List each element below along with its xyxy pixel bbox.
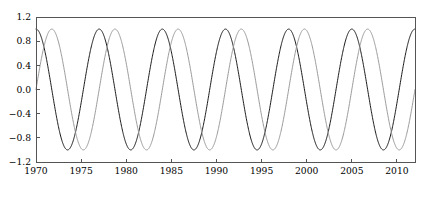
y-tick-label: −0.4 [9, 108, 31, 119]
x-tick-label: 1980 [115, 165, 139, 176]
y-tick-label: 0.8 [16, 35, 31, 46]
x-tick-label: 1975 [69, 165, 93, 176]
chart-figure: 1.20.80.40.0−0.4−0.8−1.21970197519801985… [0, 0, 433, 201]
x-tick-label: 1970 [24, 165, 48, 176]
y-tick-label: 0.0 [16, 84, 31, 95]
y-tick-label: 0.4 [16, 60, 31, 71]
y-tick-label: 1.2 [16, 11, 31, 22]
x-tick-label: 2005 [340, 165, 364, 176]
y-tick-label: −0.8 [9, 132, 31, 143]
x-tick-label: 2010 [385, 165, 409, 176]
y-axis-ticks: 1.20.80.40.0−0.4−0.8−1.2 [9, 11, 40, 167]
x-tick-label: 2000 [295, 165, 319, 176]
x-tick-label: 1990 [205, 165, 229, 176]
chart-canvas: 1.20.80.40.0−0.4−0.8−1.21970197519801985… [0, 0, 433, 201]
x-tick-label: 1995 [250, 165, 274, 176]
x-tick-label: 1985 [160, 165, 184, 176]
